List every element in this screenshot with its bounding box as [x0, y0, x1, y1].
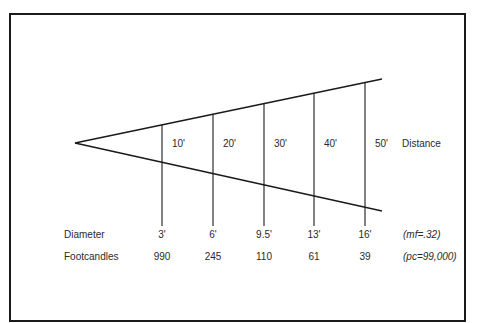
footcandles-value: 39: [359, 251, 370, 263]
footcandles-value: 61: [308, 251, 319, 263]
beam-lower-edge: [75, 143, 382, 211]
diameter-value: 16': [358, 229, 371, 241]
diameter-value: 13': [307, 229, 320, 241]
distance-value: 50': [375, 138, 388, 150]
footcandles-value: 990: [154, 251, 171, 263]
distance-axis-label: Distance: [402, 138, 441, 150]
peak-candela-note: (pc=99,000): [403, 251, 457, 263]
distance-value: 30': [274, 138, 287, 150]
footcandles-row-label: Footcandles: [64, 251, 118, 263]
distance-value: 40': [324, 138, 337, 150]
beam-upper-edge: [75, 79, 382, 143]
multiplying-factor-note: (mf=.32): [403, 229, 441, 241]
diameter-value: 6': [209, 229, 216, 241]
footcandles-value: 110: [256, 251, 272, 263]
distance-value: 20': [223, 138, 236, 150]
diameter-value: 9.5': [256, 229, 272, 241]
distance-markers: [162, 83, 365, 227]
distance-value: 10': [172, 138, 185, 150]
beam-cone-drawing: [0, 0, 477, 323]
footcandles-value: 245: [205, 251, 222, 263]
diameter-row-label: Diameter: [64, 229, 105, 241]
diameter-value: 3': [158, 229, 165, 241]
